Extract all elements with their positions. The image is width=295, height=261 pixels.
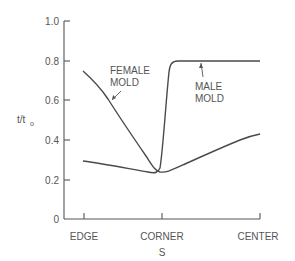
y-tick-label: 0 [53, 214, 59, 225]
x-category-corner: CORNER [140, 231, 183, 242]
x-axis-label: S [159, 247, 166, 258]
svg-text:FEMALE: FEMALE [110, 65, 150, 76]
chart-canvas: 0 0.2 0.4 0.6 0.8 1.0 t/t o EDGE CORNER … [0, 0, 295, 261]
svg-text:MOLD: MOLD [195, 93, 224, 104]
female-mold-annotation: FEMALE MOLD [110, 65, 150, 100]
x-axis [64, 213, 260, 219]
x-category-edge: EDGE [70, 231, 99, 242]
y-tick-label: 0.8 [45, 56, 59, 67]
svg-text:MOLD: MOLD [110, 77, 139, 88]
y-axis-label: t/t o [17, 114, 34, 127]
y-tick-label: 1.0 [45, 16, 59, 27]
svg-text:MALE: MALE [195, 81, 223, 92]
y-axis [64, 21, 70, 219]
svg-text:t/t: t/t [17, 114, 26, 125]
y-tick-label: 0.2 [45, 175, 59, 186]
y-tick-label: 0.4 [45, 135, 59, 146]
y-tick-label: 0.6 [45, 95, 59, 106]
svg-text:o: o [30, 120, 34, 127]
x-category-center: CENTER [237, 231, 278, 242]
male-mold-annotation: MALE MOLD [195, 63, 224, 104]
